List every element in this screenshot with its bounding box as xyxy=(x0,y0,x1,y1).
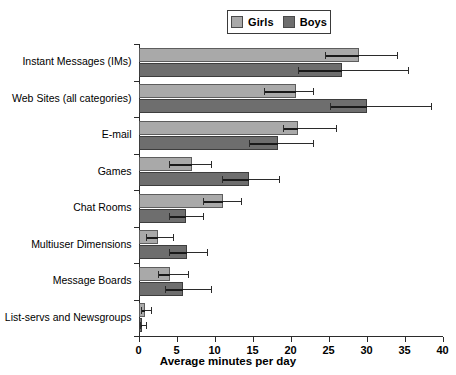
y-axis-tick xyxy=(134,117,139,118)
error-cap-lower xyxy=(222,176,223,183)
error-cap-upper xyxy=(431,103,432,110)
y-axis-tick xyxy=(134,336,139,337)
error-bar-upper xyxy=(296,91,313,92)
x-axis-tick xyxy=(405,337,406,342)
error-bar-lower xyxy=(169,164,193,166)
x-axis-tick-label: 35 xyxy=(390,345,420,356)
error-bar-lower xyxy=(298,70,342,72)
error-bar-lower xyxy=(165,289,182,291)
x-axis-tick xyxy=(253,337,254,342)
error-bar-lower xyxy=(203,201,223,203)
error-cap-lower xyxy=(169,213,170,220)
x-axis-title: Average minutes per day xyxy=(0,356,456,368)
y-axis-tick xyxy=(134,81,139,82)
error-bar-upper xyxy=(186,216,203,217)
category-label: Message Boards xyxy=(53,275,132,286)
error-cap-lower xyxy=(298,67,299,74)
error-bar-upper xyxy=(367,106,431,107)
error-bar-lower xyxy=(169,216,186,218)
x-axis-tick-label: 40 xyxy=(428,345,456,356)
error-cap-lower xyxy=(325,52,326,59)
category-label: List-servs and Newsgroups xyxy=(5,312,132,323)
category-label: Multiuser Dimensions xyxy=(31,239,131,250)
error-cap-lower xyxy=(264,88,265,95)
x-axis-tick-label: 30 xyxy=(352,345,382,356)
error-cap-lower xyxy=(249,140,250,147)
x-axis-tick xyxy=(443,337,444,342)
category-label: Instant Messages (IMs) xyxy=(22,56,131,67)
error-bar-upper xyxy=(183,289,211,290)
x-axis-tick-label: 25 xyxy=(314,345,344,356)
error-cap-lower xyxy=(283,125,284,132)
error-bar-lower xyxy=(146,237,158,239)
error-cap-lower xyxy=(203,198,204,205)
error-cap-upper xyxy=(279,176,280,183)
error-cap-upper xyxy=(211,286,212,293)
error-bar-lower xyxy=(264,91,296,93)
error-cap-lower xyxy=(165,286,166,293)
y-axis-tick xyxy=(134,263,139,264)
error-cap-upper xyxy=(146,322,147,329)
error-cap-upper xyxy=(207,249,208,256)
error-cap-upper xyxy=(313,88,314,95)
y-axis-tick xyxy=(134,44,139,45)
error-cap-upper xyxy=(397,52,398,59)
error-cap-lower xyxy=(140,322,141,329)
error-bar-lower xyxy=(169,252,187,254)
y-axis-tick xyxy=(134,154,139,155)
error-bar-lower xyxy=(222,179,249,181)
error-cap-upper xyxy=(203,213,204,220)
error-cap-upper xyxy=(241,198,242,205)
category-label: Chat Rooms xyxy=(73,202,131,213)
error-bar-upper xyxy=(223,201,241,202)
error-bar-lower xyxy=(330,106,367,108)
x-axis-tick xyxy=(139,337,140,342)
error-cap-upper xyxy=(151,307,152,314)
error-bar-upper xyxy=(187,252,207,253)
error-bar-upper xyxy=(158,237,172,238)
error-bar-upper xyxy=(170,274,187,275)
error-cap-lower xyxy=(169,161,170,168)
y-axis-tick xyxy=(134,300,139,301)
error-bar-upper xyxy=(192,164,210,165)
x-axis-tick xyxy=(329,337,330,342)
error-bar-lower xyxy=(325,55,359,57)
error-bar-lower xyxy=(283,128,298,130)
error-cap-lower xyxy=(330,103,331,110)
error-cap-upper xyxy=(313,140,314,147)
error-cap-upper xyxy=(336,125,337,132)
x-axis-tick xyxy=(215,337,216,342)
error-cap-upper xyxy=(211,161,212,168)
category-label: Games xyxy=(98,166,132,177)
error-cap-upper xyxy=(173,234,174,241)
plot-area: 0510152025303540Instant Messages (IMs)We… xyxy=(0,0,456,375)
error-bar-upper xyxy=(359,55,397,56)
error-bar-lower xyxy=(158,274,171,276)
error-cap-lower xyxy=(141,307,142,314)
error-bar-lower xyxy=(249,143,278,145)
y-axis-tick xyxy=(134,227,139,228)
x-axis-tick-label: 0 xyxy=(124,345,154,356)
chart-container: Girls Boys 0510152025303540Instant Messa… xyxy=(0,0,456,375)
error-cap-upper xyxy=(408,67,409,74)
category-label: Web Sites (all categories) xyxy=(12,93,131,104)
y-axis-tick xyxy=(134,190,139,191)
error-cap-upper xyxy=(188,271,189,278)
error-bar-upper xyxy=(298,128,336,129)
bar-girls xyxy=(139,121,299,135)
error-bar-upper xyxy=(342,70,408,71)
x-axis-tick xyxy=(367,337,368,342)
error-cap-lower xyxy=(158,271,159,278)
error-bar-upper xyxy=(249,179,279,180)
category-label: E-mail xyxy=(102,129,132,140)
x-axis-tick xyxy=(177,337,178,342)
error-cap-lower xyxy=(169,249,170,256)
x-axis-tick xyxy=(291,337,292,342)
error-cap-lower xyxy=(146,234,147,241)
error-bar-upper xyxy=(278,143,314,144)
